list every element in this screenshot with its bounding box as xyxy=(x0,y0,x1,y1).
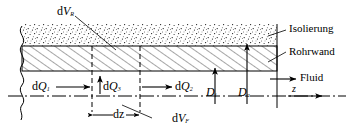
label-dvf: dVF xyxy=(172,112,189,124)
pipe-wall-layer xyxy=(22,46,277,71)
label-isolierung: Isolierung xyxy=(289,23,334,34)
label-rohrwand: Rohrwand xyxy=(289,46,335,57)
insulation-layer xyxy=(22,24,277,46)
label-dq2: dQ2 xyxy=(175,80,193,92)
label-dvr: dVR xyxy=(57,5,74,17)
label-outer-diameter: Da xyxy=(238,86,250,98)
pipe-insulation-diagram: dVR dVF dQ1 dQ3 dQ2 dz Di Da z Isolierun… xyxy=(0,0,354,133)
label-fluid: Fluid xyxy=(300,72,323,83)
label-dq3: dQ3 xyxy=(103,80,121,92)
label-dz: dz xyxy=(113,108,124,120)
label-z-axis: z xyxy=(292,84,296,94)
dvf-leader-line-icon xyxy=(122,105,152,118)
label-dq1: dQ1 xyxy=(32,80,50,92)
label-inner-diameter: Di xyxy=(206,86,216,98)
